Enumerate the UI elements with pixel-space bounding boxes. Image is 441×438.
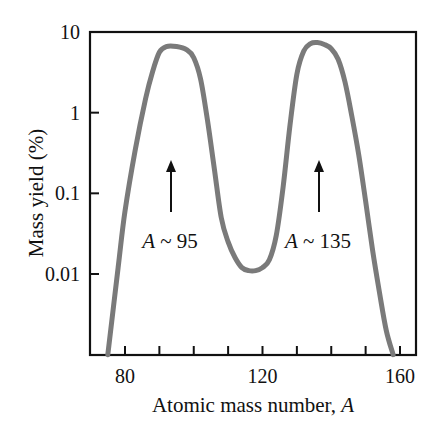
- y-tick-label: 0.1: [55, 182, 80, 204]
- x-tick-label: 80: [115, 365, 135, 387]
- y-tick-label: 10: [60, 21, 80, 43]
- plot-frame: [90, 32, 416, 355]
- y-tick-label: 1: [70, 102, 80, 124]
- y-axis-title: Mass yield (%): [24, 129, 48, 257]
- arrowhead-icon: [314, 160, 324, 172]
- mass-yield-chart: 1010.10.01 80120160 A ~ 95A ~ 135 Atomic…: [0, 0, 441, 438]
- x-tick-label: 120: [248, 365, 278, 387]
- arrowhead-icon: [166, 160, 176, 172]
- x-axis-title: Atomic mass number, A: [152, 393, 354, 417]
- peak-label: A ~ 135: [283, 229, 351, 253]
- x-axis-ticks: 80120160: [115, 346, 415, 387]
- x-tick-label: 160: [385, 365, 415, 387]
- y-tick-label: 0.01: [45, 263, 80, 285]
- mass-yield-curve: [108, 42, 393, 354]
- peak-annotations: A ~ 95A ~ 135: [140, 160, 351, 253]
- peak-label: A ~ 95: [140, 229, 198, 253]
